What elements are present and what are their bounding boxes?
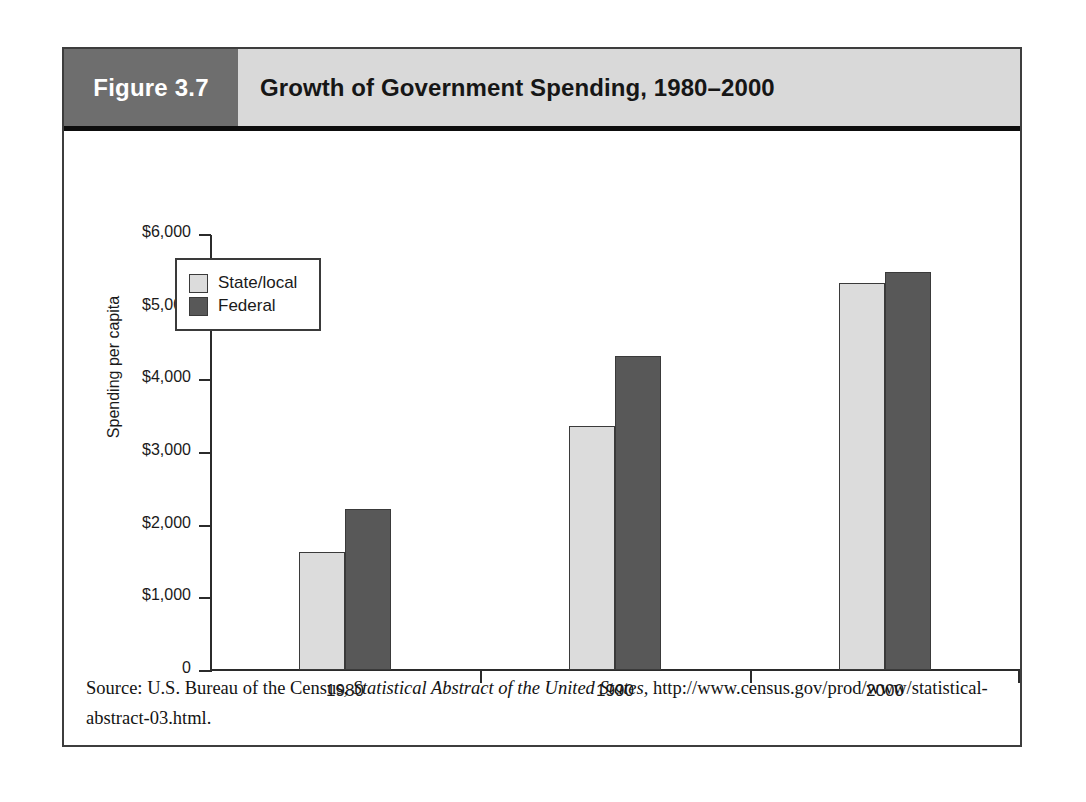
y-tick-label: $2,000 [142,514,191,532]
bar-federal-1980 [345,509,391,670]
source-prefix: Source: U.S. Bureau of the Census, [86,678,353,698]
y-tick: $4,000 [199,379,211,381]
bar-state-local-2000 [839,283,885,670]
figure-title: Growth of Government Spending, 1980–2000 [260,74,775,102]
bar-federal-2000 [885,272,931,670]
legend-item-federal: Federal [189,296,297,316]
source-publication-title: Statistical Abstract of the United State… [353,678,649,698]
y-tick: $1,000 [199,597,211,599]
legend-label: State/local [218,273,297,293]
plot-region: $6,000$5,000$4,000$3,000$2,000$1,0000 19… [210,235,1024,671]
y-tick-label: $4,000 [142,368,191,386]
figure-number-block: Figure 3.7 [64,49,238,126]
y-tick-label: $6,000 [142,223,191,241]
y-tick: 0 [199,670,211,672]
y-axis-title: Spending per capita [105,257,123,477]
legend-label: Federal [218,296,276,316]
y-tick-label: $3,000 [142,441,191,459]
bar-state-local-1980 [299,552,345,670]
figure-header: Figure 3.7 Growth of Government Spending… [64,49,1020,131]
figure-number-label: Figure 3.7 [93,74,208,102]
bar-federal-1990 [615,356,661,670]
figure-title-block: Growth of Government Spending, 1980–2000 [238,49,1020,126]
y-tick: $6,000 [199,234,211,236]
y-tick-label: $1,000 [142,586,191,604]
legend-swatch-icon [189,297,208,316]
y-tick: $2,000 [199,525,211,527]
legend-item-state-local: State/local [189,273,297,293]
chart-legend: State/localFederal [175,258,321,331]
source-note: Source: U.S. Bureau of the Census, Stati… [86,674,1006,734]
legend-swatch-icon [189,274,208,293]
bar-state-local-1990 [569,426,615,670]
chart-area: Spending per capita $6,000$5,000$4,000$3… [64,136,1020,659]
y-tick: $3,000 [199,452,211,454]
figure-frame: Figure 3.7 Growth of Government Spending… [62,47,1022,747]
